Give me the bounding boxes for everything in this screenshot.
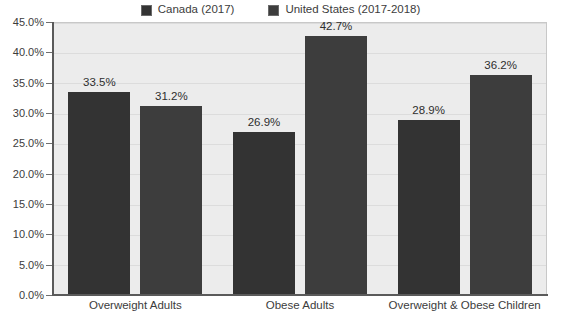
bar-value-label: 36.2% <box>470 60 532 72</box>
y-axis-tick-labels: 0.0%5.0%10.0%15.0%20.0%25.0%30.0%35.0%40… <box>0 0 44 316</box>
y-axis-tick-mark <box>46 113 52 114</box>
bar-value-label: 33.5% <box>68 77 130 89</box>
y-axis-tick-mark <box>46 204 52 205</box>
y-axis-tick-mark <box>46 83 52 84</box>
y-axis-tick-mark <box>46 52 52 53</box>
y-axis-tick-label: 10.0% <box>0 229 44 240</box>
bar[interactable] <box>68 92 130 295</box>
y-axis-tick-mark <box>46 234 52 235</box>
y-axis-tick-label: 15.0% <box>0 199 44 210</box>
y-axis-tick-mark <box>46 22 52 23</box>
y-axis-tick-label: 35.0% <box>0 77 44 88</box>
bars-layer: 33.5%31.2%26.9%42.7%28.9%36.2% <box>53 22 547 295</box>
bar-value-label: 31.2% <box>140 91 202 103</box>
x-axis-line <box>52 294 548 296</box>
x-axis-category-label: Overweight & Obese Children <box>382 300 547 312</box>
bar[interactable] <box>398 120 460 295</box>
y-axis-tick-label: 40.0% <box>0 47 44 58</box>
legend-entry-canada[interactable]: Canada (2017) <box>141 4 235 16</box>
legend-swatch-canada-icon <box>141 5 152 16</box>
y-axis-tick-label: 5.0% <box>0 259 44 270</box>
bar[interactable] <box>233 132 295 295</box>
legend-label-canada: Canada (2017) <box>158 4 235 16</box>
legend-swatch-united-states-icon <box>268 5 279 16</box>
bar-value-label: 28.9% <box>398 105 460 117</box>
y-axis-tick-label: 0.0% <box>0 290 44 301</box>
chart-legend: Canada (2017) United States (2017-2018) <box>0 0 561 20</box>
y-axis-tick-label: 30.0% <box>0 108 44 119</box>
y-axis-tick-label: 20.0% <box>0 168 44 179</box>
y-axis-tick-mark <box>46 295 52 296</box>
bar-value-label: 26.9% <box>233 117 295 129</box>
y-axis-tick-mark <box>46 143 52 144</box>
x-axis-category-label: Overweight Adults <box>53 300 218 312</box>
y-axis-tick-mark <box>46 174 52 175</box>
bar[interactable] <box>305 36 367 295</box>
bar-value-label: 42.7% <box>305 21 367 33</box>
x-axis-category-label: Obese Adults <box>218 300 383 312</box>
bar[interactable] <box>470 75 532 295</box>
y-axis-tick-label: 45.0% <box>0 17 44 28</box>
y-axis-tick-label: 25.0% <box>0 138 44 149</box>
legend-entry-united-states[interactable]: United States (2017-2018) <box>268 4 420 16</box>
y-axis-tick-mark <box>46 265 52 266</box>
legend-label-united-states: United States (2017-2018) <box>285 4 420 16</box>
bar-chart: Canada (2017) United States (2017-2018) … <box>0 0 561 316</box>
bar[interactable] <box>140 106 202 295</box>
